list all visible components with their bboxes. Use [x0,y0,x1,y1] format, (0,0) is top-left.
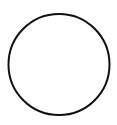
circle-shape [9,14,110,115]
diagram-canvas [0,0,117,125]
